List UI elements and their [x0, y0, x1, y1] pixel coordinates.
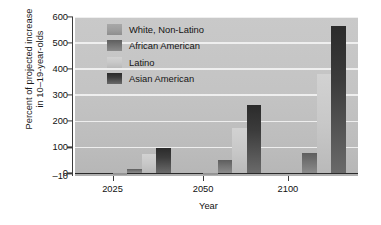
x-tick-label: 2050 [193, 184, 214, 194]
y-tick-label: 300 [28, 90, 68, 100]
x-axis-label: Year [0, 201, 381, 211]
bar-2025-series-1 [127, 169, 142, 173]
bar-2100-series-2 [317, 74, 332, 173]
y-tick-mark [67, 16, 73, 17]
y-tick-label: 500 [28, 38, 68, 48]
gridline [75, 147, 358, 148]
y-axis-spine [72, 17, 73, 176]
y-tick-label: 400 [28, 64, 68, 74]
bar-2100-series-3 [331, 26, 346, 173]
x-tick-label: 2100 [278, 184, 299, 194]
x-axis-ticks [75, 176, 358, 182]
bar-2025-series-3 [156, 148, 171, 173]
bar-2025-series-2 [142, 154, 157, 174]
y-tick-mark [67, 69, 73, 70]
legend-label: Asian American [129, 73, 194, 84]
legend-label: Latino [129, 57, 155, 68]
y-tick-label: 0 [28, 168, 68, 178]
legend-swatch-icon [107, 73, 122, 84]
y-tick-mark [67, 42, 73, 43]
legend-swatch-icon [107, 24, 122, 35]
y-tick-mark [67, 121, 73, 122]
chart-legend: White, Non-LatinoAfrican AmericanLatinoA… [107, 24, 204, 84]
y-tick-mark [67, 95, 73, 96]
bar-2050-series-2 [232, 128, 247, 174]
legend-item: Latino [107, 57, 204, 68]
bar-2100-series-1 [302, 153, 317, 174]
bar-2050-series-3 [247, 105, 262, 173]
legend-item: Asian American [107, 73, 204, 84]
x-tick-mark [113, 176, 114, 181]
chart-figure: Percent of projected increase in 10–19-y… [0, 0, 381, 225]
legend-item: White, Non-Latino [107, 24, 204, 35]
legend-label: White, Non-Latino [129, 24, 204, 35]
gridline [75, 94, 358, 95]
x-tick-label: 2025 [102, 184, 123, 194]
x-axis-label-text: Year [199, 201, 218, 211]
gridline [75, 17, 358, 18]
legend-swatch-icon [107, 40, 122, 51]
y-tick-label: 600 [28, 12, 68, 22]
x-tick-mark [288, 176, 289, 181]
bar-2050-series-1 [218, 160, 233, 173]
x-tick-mark [203, 176, 204, 181]
y-tick-mark [67, 147, 73, 148]
y-tick-mark [67, 173, 73, 174]
legend-item: African American [107, 40, 204, 51]
legend-swatch-icon [107, 57, 122, 68]
y-axis-tick-labels: –100100200300400500600 [28, 0, 68, 225]
y-tick-label: 100 [28, 142, 68, 152]
legend-label: African American [129, 40, 200, 51]
y-tick-label: 200 [28, 116, 68, 126]
gridline [75, 121, 358, 122]
